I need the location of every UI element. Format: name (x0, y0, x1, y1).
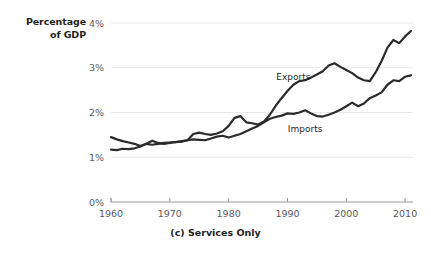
series-annotations-group: ExportsImports (276, 72, 322, 133)
y-tick-label-1%: 1% (89, 152, 104, 163)
figure-caption-text: (c) Services Only (170, 227, 260, 238)
x-tick-label-1970: 1970 (158, 208, 182, 219)
data-series-group (111, 31, 411, 150)
x-tick-label-2010: 2010 (393, 208, 417, 219)
x-tick-label-1980: 1980 (217, 208, 241, 219)
y-tick-label-2%: 2% (89, 107, 104, 118)
x-axis-group: 196019701980199020002010 (99, 198, 417, 219)
series-annotation-imports: Imports (288, 124, 323, 134)
line-chart-plot: 0%1%2%3%4% 196019701980199020002010 Expo… (0, 0, 431, 254)
x-tick-label-2000: 2000 (334, 208, 358, 219)
y-axis-ticks-group: 0%1%2%3%4% (89, 18, 104, 208)
series-annotation-exports: Exports (276, 72, 310, 82)
figure-caption: (c) Services Only (0, 227, 431, 238)
y-tick-label-3%: 3% (89, 62, 104, 73)
gridlines-group (111, 23, 413, 157)
series-line-exports (111, 31, 411, 146)
y-tick-label-4%: 4% (89, 18, 104, 29)
chart-figure: Percentage of GDP 0%1%2%3%4% 19601970198… (0, 0, 431, 254)
y-tick-label-0%: 0% (89, 197, 104, 208)
x-tick-label-1990: 1990 (275, 208, 299, 219)
x-tick-label-1960: 1960 (99, 208, 123, 219)
